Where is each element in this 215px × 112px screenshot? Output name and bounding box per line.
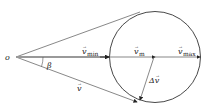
- svg-text:→: →: [155, 73, 160, 78]
- svg-text:max: max: [183, 50, 196, 57]
- svg-text:→: →: [77, 81, 82, 86]
- v-m-label: v m →: [134, 44, 145, 57]
- beta-angle-arc: [42, 57, 44, 67]
- v-min-label: v min →: [82, 44, 99, 57]
- svg-text:→: →: [82, 44, 87, 49]
- velocity-circle-diagram: o β v min → v m → v max → v → Δv →: [0, 0, 215, 112]
- origin-label: o: [5, 53, 10, 62]
- svg-text:m: m: [139, 50, 145, 57]
- beta-label: β: [46, 61, 52, 70]
- svg-text:→: →: [134, 44, 139, 49]
- delta-v-label: Δv →: [148, 73, 160, 85]
- svg-text:→: →: [178, 44, 183, 49]
- diagram-canvas: o β v min → v m → v max → v → Δv →: [0, 0, 215, 112]
- v-label: v →: [77, 81, 82, 93]
- v-max-label: v max →: [178, 44, 196, 57]
- svg-text:min: min: [87, 50, 99, 57]
- upper-tangent-line: [16, 12, 140, 57]
- v-vector-line: [16, 57, 137, 102]
